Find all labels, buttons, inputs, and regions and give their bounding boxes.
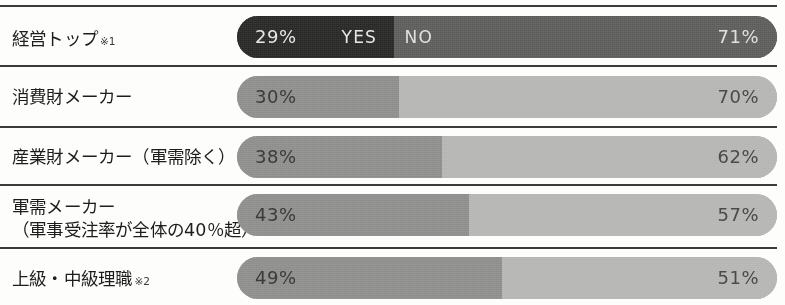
legend-label-no: NO	[405, 16, 434, 58]
row-divider	[0, 126, 777, 128]
row-label-line1: 上級・中級理職	[12, 269, 132, 289]
yes-percent-label: 29%	[255, 16, 297, 58]
no-percent-label: 70%	[717, 76, 759, 118]
row-label-line1: 経営トップ	[12, 29, 98, 49]
yes-percent-label: 30%	[255, 76, 297, 118]
row-divider	[0, 5, 777, 7]
yes-percent-label: 49%	[255, 257, 297, 299]
row-divider	[0, 184, 777, 186]
no-percent-label: 71%	[717, 16, 759, 58]
row-label-note: ※2	[134, 275, 149, 287]
row-label: 経営トップ※1	[12, 28, 115, 53]
yes-percent-label: 43%	[255, 194, 297, 236]
no-percent-label: 51%	[717, 257, 759, 299]
row-divider	[0, 65, 777, 67]
row-label-note: ※1	[100, 35, 115, 47]
stacked-bar: 30%70%	[237, 76, 777, 118]
stacked-bar: 29%71%YESNO	[237, 16, 777, 58]
row-label: 産業財メーカー（軍需除く）	[12, 146, 236, 169]
row-label: 軍需メーカー（軍事受注率が全体の40％超）	[12, 196, 258, 242]
yes-percent-label: 38%	[255, 136, 297, 178]
row-label-line2: （軍事受注率が全体の40％超）	[12, 219, 258, 242]
stacked-bar: 49%51%	[237, 257, 777, 299]
stacked-bar-chart: 経営トップ※129%71%YESNO消費財メーカー30%70%産業財メーカー（軍…	[0, 0, 785, 305]
legend-label-yes: YES	[342, 16, 378, 58]
row-label-line1: 軍需メーカー	[12, 197, 115, 217]
no-percent-label: 57%	[717, 194, 759, 236]
row-label: 上級・中級理職※2	[12, 268, 150, 293]
row-label-line1: 消費財メーカー	[12, 87, 132, 107]
row-label: 消費財メーカー	[12, 86, 132, 109]
no-percent-label: 62%	[717, 136, 759, 178]
row-label-line1: 産業財メーカー（軍需除く）	[12, 147, 236, 167]
stacked-bar: 38%62%	[237, 136, 777, 178]
stacked-bar: 43%57%	[237, 194, 777, 236]
row-divider	[0, 247, 777, 249]
